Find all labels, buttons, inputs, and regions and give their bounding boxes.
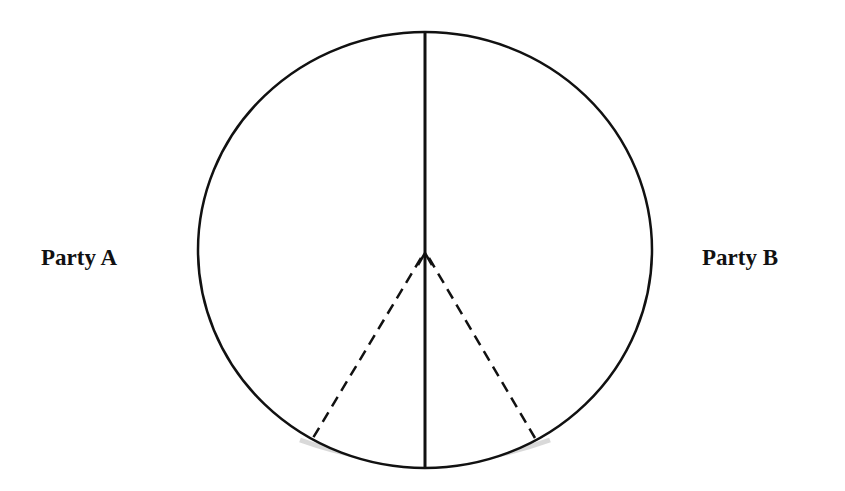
party-a-label: Party A bbox=[41, 245, 117, 271]
party-b-label: Party B bbox=[702, 245, 778, 271]
